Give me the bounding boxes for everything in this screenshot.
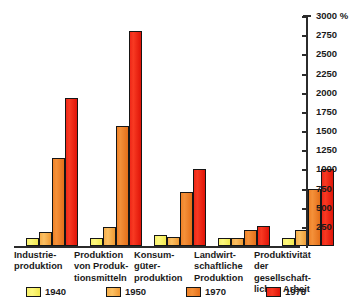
chart-legend: 1940195019701978: [26, 287, 346, 297]
bar-1978: [193, 169, 206, 246]
bar-1970: [116, 126, 129, 246]
y-axis-tick: [302, 189, 308, 191]
bar-1950: [39, 232, 52, 246]
plot-area: [14, 16, 300, 248]
y-axis-tick-label: 750: [316, 184, 332, 194]
bar-1978: [65, 98, 78, 246]
bar-1970: [244, 230, 257, 246]
y-axis: 3000 %2750250022502000175015001250100075…: [306, 16, 310, 248]
bar-1978: [257, 226, 270, 246]
y-axis-tick: [302, 208, 308, 210]
bar-1940: [282, 238, 295, 246]
y-axis-tick-label: 500: [316, 203, 332, 213]
y-axis-tick-label: 1750: [316, 107, 337, 117]
y-axis-tick: [302, 54, 308, 56]
bar-1950: [231, 238, 244, 246]
legend-swatch-icon: [266, 287, 281, 297]
bar-group: [78, 16, 142, 246]
legend-swatch-icon: [26, 287, 41, 297]
legend-item-1940[interactable]: 1940: [26, 287, 106, 297]
y-axis-tick: [302, 169, 308, 171]
bar-1978: [129, 31, 142, 246]
bar-groups: [14, 16, 300, 246]
bar-1970: [52, 158, 65, 246]
bar-1940: [218, 238, 231, 246]
bar-1950: [167, 237, 180, 246]
legend-label: 1950: [125, 287, 146, 297]
bar-group: [14, 16, 78, 246]
bar-1970: [180, 192, 193, 246]
y-axis-tick: [302, 74, 308, 76]
y-axis-tick-label: 2750: [316, 30, 337, 40]
bar-1950: [103, 227, 116, 246]
y-axis-tick-label: 1250: [316, 145, 337, 155]
bar-1940: [90, 238, 103, 246]
y-axis-tick: [302, 112, 308, 114]
y-axis-tick-label: 2000: [316, 88, 337, 98]
legend-item-1970[interactable]: 1970: [186, 287, 266, 297]
bar-1940: [26, 238, 39, 246]
legend-swatch-icon: [106, 287, 121, 297]
x-axis-baseline: [14, 246, 300, 248]
y-axis-tick-label: 3000 %: [316, 11, 348, 21]
y-axis-tick: [302, 16, 308, 18]
bar-group: [142, 16, 206, 246]
legend-item-1950[interactable]: 1950: [106, 287, 186, 297]
legend-label: 1978: [285, 287, 306, 297]
y-axis-tick-label: 1000: [316, 165, 337, 175]
bar-chart: 3000 %2750250022502000175015001250100075…: [0, 0, 364, 307]
y-axis-tick-label: 2500: [316, 50, 337, 60]
legend-item-1978[interactable]: 1978: [266, 287, 346, 297]
bar-group: [206, 16, 270, 246]
y-axis-tick: [302, 35, 308, 37]
legend-label: 1970: [205, 287, 226, 297]
y-axis-tick-label: 1500: [316, 126, 337, 136]
y-axis-tick: [302, 131, 308, 133]
y-axis-tick-label: 250: [316, 222, 332, 232]
legend-swatch-icon: [186, 287, 201, 297]
bar-1940: [154, 235, 167, 246]
y-axis-tick: [302, 93, 308, 95]
legend-label: 1940: [45, 287, 66, 297]
y-axis-tick: [302, 150, 308, 152]
y-axis-tick-label: 2250: [316, 69, 337, 79]
y-axis-tick: [302, 227, 308, 229]
